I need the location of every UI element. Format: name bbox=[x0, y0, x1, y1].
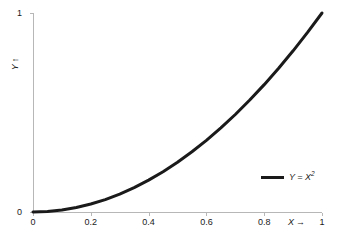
legend-line-swatch bbox=[261, 176, 284, 179]
chart-figure: 00.20.40.60.8101 X→ Y↑ Y = X2 bbox=[0, 0, 340, 243]
x-axis-title: X→ bbox=[288, 218, 305, 227]
legend-label-superscript: 2 bbox=[311, 170, 315, 177]
x-axis-arrow-icon: → bbox=[294, 217, 305, 227]
legend-label-prefix: Y = X bbox=[289, 172, 311, 182]
y-axis-title: Y↑ bbox=[8, 44, 22, 84]
legend-label: Y = X2 bbox=[289, 173, 315, 182]
plot-curve-svg bbox=[0, 0, 340, 243]
chart-legend: Y = X2 bbox=[261, 173, 315, 182]
y-axis-arrow-icon: ↑ bbox=[10, 58, 20, 65]
series-curve bbox=[33, 13, 322, 212]
y-axis-title-text: Y bbox=[10, 64, 20, 70]
